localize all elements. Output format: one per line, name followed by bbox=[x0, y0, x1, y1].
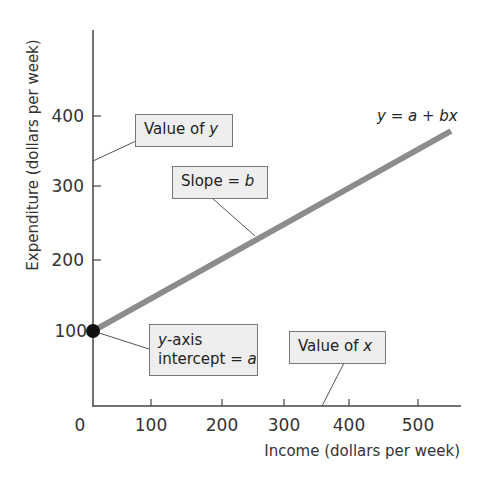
y-tick-label-400: 400 bbox=[52, 106, 84, 126]
callout-value-of-x-text: Value of bbox=[298, 337, 363, 355]
x-tick-label-0: 0 bbox=[75, 415, 86, 435]
equation-a: a bbox=[408, 107, 417, 125]
callout-slope-var: b bbox=[245, 172, 255, 190]
x-tick-label-300: 300 bbox=[268, 415, 300, 435]
equation-bx: bx bbox=[439, 107, 457, 125]
callout-value-of-y-var: y bbox=[209, 120, 218, 138]
equation-plus: + bbox=[417, 107, 439, 125]
intercept-point bbox=[86, 324, 100, 338]
y-tick-label-200: 200 bbox=[52, 250, 84, 270]
x-tick-label-500: 500 bbox=[402, 415, 434, 435]
callout-intercept-line1: y-axis bbox=[158, 331, 249, 350]
callout-intercept-line1-rest: -axis bbox=[167, 331, 202, 349]
leader-value-of-x bbox=[322, 363, 344, 406]
callout-intercept-var: y bbox=[158, 331, 167, 349]
callout-intercept-var2: a bbox=[248, 350, 257, 368]
equation-label: y = a + bx bbox=[377, 107, 458, 125]
callout-slope: Slope = b bbox=[172, 166, 268, 199]
callout-intercept: y-axis intercept = a bbox=[149, 324, 258, 376]
callout-value-of-x-var: x bbox=[363, 337, 372, 355]
chart-canvas: 400 300 200 100 0 100 200 300 400 500 In… bbox=[0, 0, 492, 480]
callout-slope-text: Slope = bbox=[181, 172, 245, 190]
leader-slope bbox=[212, 198, 255, 236]
callout-value-of-x: Value of x bbox=[289, 331, 386, 364]
regression-line bbox=[93, 131, 451, 331]
callout-value-of-y-text: Value of bbox=[144, 120, 209, 138]
x-tick-label-200: 200 bbox=[206, 415, 238, 435]
y-tick-label-100: 100 bbox=[55, 321, 87, 341]
x-tick-label-400: 400 bbox=[333, 415, 365, 435]
callout-value-of-y: Value of y bbox=[135, 114, 233, 147]
y-axis-title: Expenditure (dollars per week) bbox=[24, 39, 42, 270]
equation-y: y bbox=[377, 107, 386, 125]
x-tick-label-100: 100 bbox=[135, 415, 167, 435]
y-tick-label-300: 300 bbox=[52, 176, 84, 196]
x-axis-title: Income (dollars per week) bbox=[264, 442, 460, 460]
callout-intercept-line2: intercept = a bbox=[158, 350, 249, 369]
equation-equals: = bbox=[386, 107, 408, 125]
callout-intercept-line2-text: intercept = bbox=[158, 350, 248, 368]
leader-intercept bbox=[93, 331, 149, 349]
leader-value-of-y bbox=[93, 141, 136, 161]
